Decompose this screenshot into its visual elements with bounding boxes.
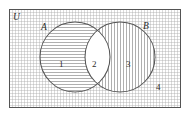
venn-diagram-figure: U A B 1 2 3 4 [0, 0, 191, 117]
region-3-label: 3 [126, 60, 131, 69]
region-4-label: 4 [156, 83, 161, 92]
set-b-label: B [143, 22, 149, 32]
universe-label: U [13, 13, 20, 23]
region-1-label: 1 [59, 60, 64, 69]
set-a-label: A [41, 23, 47, 33]
region-2-label: 2 [92, 60, 97, 69]
